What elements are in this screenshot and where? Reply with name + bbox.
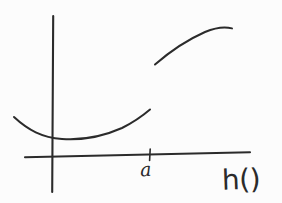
- y-axis: [52, 16, 53, 192]
- curve-right-branch: [155, 27, 232, 64]
- x-tick-label-a: a: [139, 160, 152, 180]
- sketch-canvas: a h(): [0, 0, 282, 203]
- x-axis: [25, 152, 250, 157]
- curve-left-branch: [14, 110, 150, 140]
- function-label: h(): [222, 165, 261, 194]
